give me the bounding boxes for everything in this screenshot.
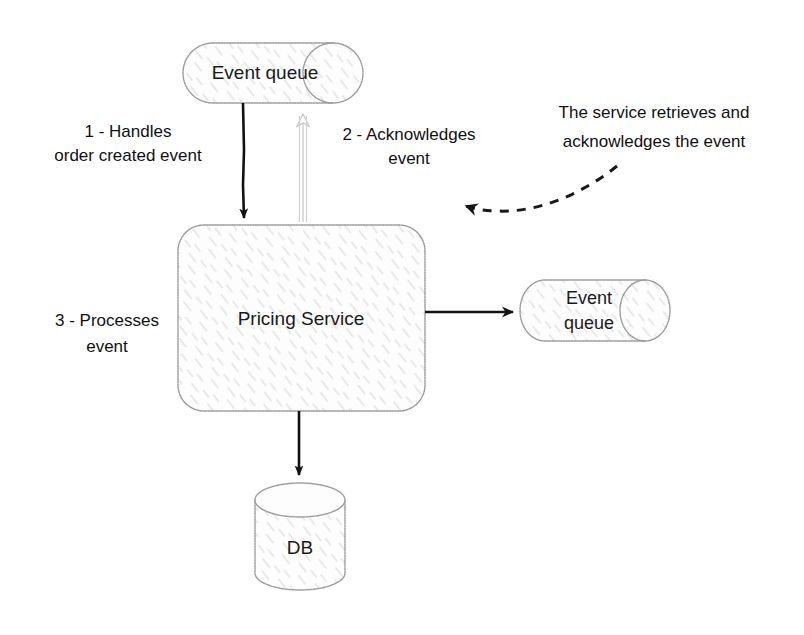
edge-acknowledges (300, 115, 307, 222)
dashed-curved-arrow (466, 166, 617, 211)
node-label-event-queue-top: Event queue (212, 62, 319, 83)
edge-label-handles-order-created: 1 - Handles order created event (54, 122, 202, 165)
annotation-service-retrieves: The service retrieves and acknowledges t… (466, 103, 749, 211)
annotation-line2: acknowledges the event (563, 132, 746, 151)
architecture-diagram: Event queue Pricing Service Eve (0, 0, 804, 635)
edge-handles-order-created (243, 103, 244, 218)
edge-label-line1: 3 - Processes (55, 311, 159, 330)
edge-label-acknowledges: 2 - Acknowledges event (342, 125, 475, 168)
edge-label-line1: 1 - Handles (85, 122, 172, 141)
node-label-event-queue-right-line1: Event (566, 288, 612, 308)
node-label-database: DB (287, 537, 313, 558)
arrow-line-down-left (243, 103, 244, 218)
diagram-canvas-root: Event queue Pricing Service Eve (0, 0, 804, 635)
node-label-event-queue-right-line2: queue (564, 313, 614, 333)
node-database[interactable]: DB (255, 483, 345, 590)
node-label-pricing-service: Pricing Service (238, 308, 365, 329)
edge-label-line2: event (388, 149, 430, 168)
edge-label-line1: 2 - Acknowledges (342, 125, 475, 144)
node-pricing-service[interactable]: Pricing Service (178, 225, 425, 411)
annotation-line1: The service retrieves and (559, 103, 750, 122)
node-event-queue-top[interactable]: Event queue (183, 43, 363, 103)
edge-label-processes: 3 - Processes event (55, 311, 159, 356)
edge-label-line2: event (86, 337, 128, 356)
edge-label-line2: order created event (54, 146, 202, 165)
node-event-queue-right[interactable]: Event queue (520, 280, 670, 341)
